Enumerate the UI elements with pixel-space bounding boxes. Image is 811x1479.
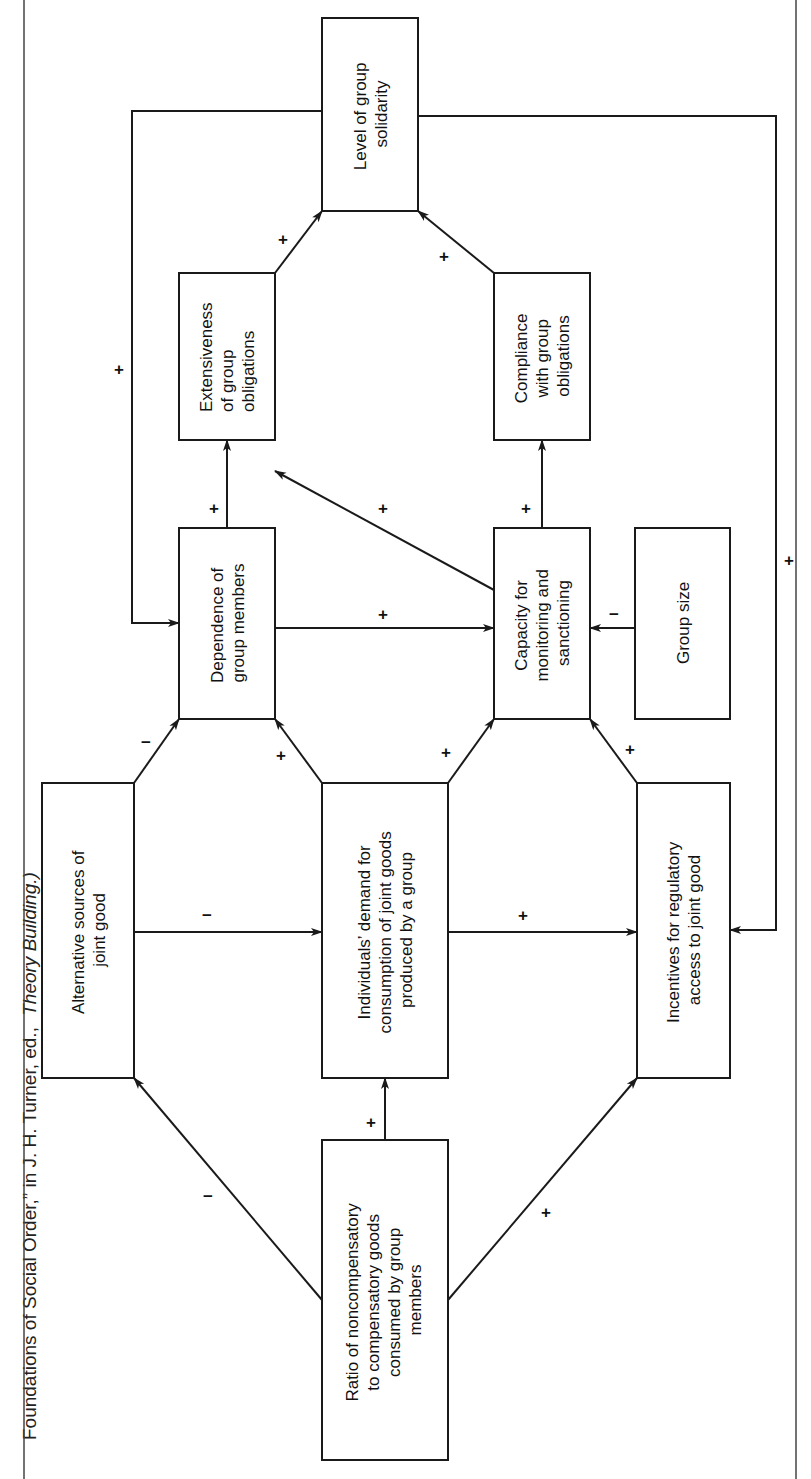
- sign-capacity-extensiveness: +: [378, 499, 388, 518]
- node-dependence: [179, 528, 275, 719]
- node-alternative: [42, 783, 134, 1078]
- sign-dependence-extensiveness: +: [209, 499, 219, 518]
- caption-italic: Theory Building.): [19, 872, 40, 1016]
- edge-compliance-solidarity: [418, 211, 494, 273]
- edge-capacity-extensiveness: [275, 471, 494, 590]
- label-compliance: Compliance with group obligations: [512, 309, 573, 404]
- sign-ratio-alternative: −: [203, 1187, 213, 1206]
- sign-extensiveness-solidarity: +: [278, 230, 288, 249]
- sign-demand-capacity: +: [441, 743, 451, 762]
- sign-demand-dependence: +: [276, 746, 286, 765]
- sign-ratio-incentives: +: [541, 1203, 551, 1222]
- sign-alternative-dependence: −: [141, 733, 151, 752]
- node-incentives: [637, 783, 730, 1078]
- sign-capacity-compliance: +: [521, 499, 531, 518]
- sign-groupsize-capacity: −: [609, 605, 619, 624]
- caption: Foundations of Social Order,” in J. H. T…: [19, 872, 40, 1440]
- svg-text:Individuals’ demand for: Individuals’ demand for consumption of j…: [355, 827, 416, 1034]
- svg-text:Capacity for monitoring: Capacity for monitoring and sanctioning: [512, 564, 573, 681]
- edge-demand-capacity: [448, 719, 494, 783]
- sign-demand-incentives: +: [518, 906, 528, 925]
- caption-plain: Foundations of Social Order,” in J. H. T…: [19, 1027, 40, 1440]
- svg-text:Compliance with group: Compliance with group obligations: [512, 309, 573, 404]
- sign-dependence-capacity: +: [378, 605, 388, 624]
- edge-ratio-alternative: [134, 1078, 322, 1300]
- sign-solidarity-dependence: +: [114, 360, 124, 379]
- svg-text:Group size: Group size: [674, 582, 693, 664]
- causal-diagram: Foundations of Social Order,” in J. H. T…: [0, 0, 811, 1479]
- label-demand: Individuals’ demand for consumption of j…: [355, 827, 416, 1034]
- svg-text:Foundations of Social Order,”: Foundations of Social Order,” in J. H. T…: [19, 872, 40, 1440]
- sign-compliance-solidarity: +: [439, 247, 449, 266]
- edge-ratio-incentives: [448, 1078, 637, 1300]
- sign-ratio-demand: +: [366, 1113, 376, 1132]
- label-group-size: Group size: [674, 582, 693, 664]
- label-capacity: Capacity for monitoring and sanctioning: [512, 564, 573, 681]
- sign-alternative-demand: −: [202, 906, 212, 925]
- sign-incentives-capacity: +: [625, 740, 635, 759]
- sign-solidarity-incentives: +: [784, 551, 794, 570]
- node-solidarity: [322, 18, 418, 211]
